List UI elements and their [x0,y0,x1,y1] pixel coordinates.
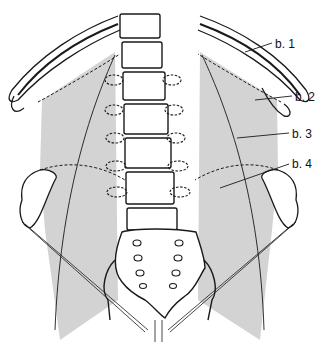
lumbar-spine [120,14,177,230]
anatomy-diagram: b. 1 b. 2 b. 3 b. 4 [0,0,319,342]
label-b2: b. 2 [295,90,315,104]
labels: b. 1 b. 2 b. 3 b. 4 [275,37,315,171]
label-b3: b. 3 [292,127,312,141]
label-b1: b. 1 [275,37,295,51]
label-b4: b. 4 [292,157,312,171]
